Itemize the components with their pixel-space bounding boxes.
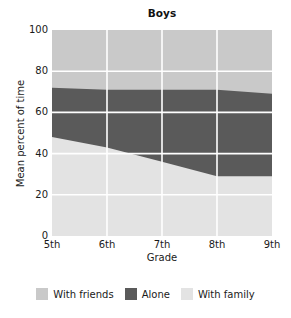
legend-swatch-with-family (181, 288, 193, 300)
legend-item-alone: Alone (125, 288, 170, 300)
legend-item-with-family: With family (181, 288, 255, 300)
x-tick-5th: 5th (32, 239, 72, 250)
legend-swatch-alone (125, 288, 137, 300)
x-tick-9th: 9th (252, 239, 291, 250)
legend-label-with-friends: With friends (53, 289, 113, 300)
chart-legend: With friends Alone With family (0, 283, 291, 305)
plot-area (52, 30, 272, 236)
y-tick-40: 40 (2, 149, 48, 159)
legend-label-alone: Alone (142, 289, 170, 300)
chart-title: Boys (52, 7, 272, 19)
y-axis-ticks: 100 80 60 40 20 0 (0, 0, 48, 318)
y-tick-20: 20 (2, 190, 48, 200)
chart-figure: Boys Mean percent of time 100 80 60 40 2… (0, 0, 291, 318)
legend-swatch-with-friends (36, 288, 48, 300)
legend-item-with-friends: With friends (36, 288, 113, 300)
x-tick-8th: 8th (197, 239, 237, 250)
y-tick-80: 80 (2, 66, 48, 76)
y-tick-100: 100 (2, 25, 48, 35)
stacked-area-plot (52, 30, 272, 236)
x-axis-label: Grade (52, 252, 272, 263)
legend-label-with-family: With family (198, 289, 255, 300)
x-tick-7th: 7th (142, 239, 182, 250)
y-tick-60: 60 (2, 107, 48, 117)
x-tick-6th: 6th (87, 239, 127, 250)
